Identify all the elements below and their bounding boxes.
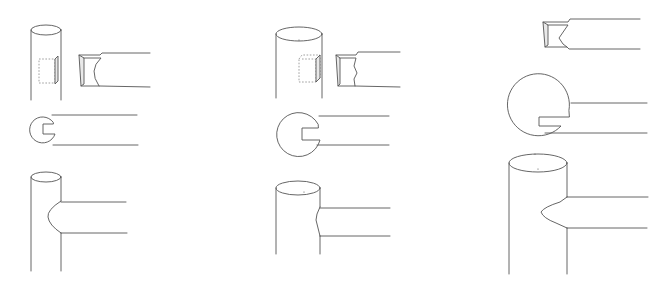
tenon-concave-scribe <box>84 58 101 86</box>
assembled-joint <box>31 172 127 271</box>
diagram-canvas <box>0 0 664 291</box>
post-center-mark-lower <box>537 168 538 169</box>
plan-circle-with-notch <box>30 117 55 143</box>
plan-section <box>277 113 389 157</box>
rail-top-edge <box>79 53 150 55</box>
assembled-joint <box>276 181 390 254</box>
post-center-mark <box>534 153 535 154</box>
post-with-mortise <box>276 27 322 98</box>
rail-with-tenon <box>336 52 400 87</box>
assembled-joint <box>509 153 648 274</box>
post-top-ellipse <box>276 27 322 41</box>
variant-3 <box>507 19 648 274</box>
rail-top-edge <box>543 19 640 22</box>
rail-with-tenon <box>543 19 640 49</box>
rail-bottom-edge <box>81 86 150 87</box>
post-with-mortise <box>31 25 61 100</box>
rail-with-tenon <box>79 53 150 87</box>
assembled-scribe-curve <box>48 201 61 233</box>
plan-section <box>30 115 138 145</box>
variant-2 <box>276 27 400 254</box>
variant-1 <box>30 25 150 271</box>
plan-section <box>507 74 647 136</box>
tenon-v-scribe <box>548 25 568 47</box>
post-top-ellipse <box>31 25 61 35</box>
rail-bottom-edge <box>338 86 400 87</box>
tenon-end-face <box>79 55 84 86</box>
rail-top-edge <box>336 52 400 55</box>
post-center-mark <box>298 39 299 40</box>
plan-circle-with-notch <box>507 74 569 136</box>
tenon-wavy-scribe <box>340 58 357 86</box>
rail-bottom-edge <box>545 47 640 49</box>
plan-circle-with-notch <box>277 113 320 157</box>
assembled-post-top <box>31 172 61 182</box>
assembled-post-top <box>276 181 320 195</box>
assembled-scribe-curve <box>541 197 567 228</box>
joinery-diagram <box>0 0 664 291</box>
tenon-end-face <box>336 55 340 86</box>
tenon-end-face <box>543 22 548 47</box>
mortise-hidden-outline <box>39 59 55 83</box>
mortise-side-face <box>316 55 320 82</box>
mortise-side-face <box>55 56 58 84</box>
assembled-scribe-curve <box>316 207 320 236</box>
post-center-mark <box>303 191 304 192</box>
